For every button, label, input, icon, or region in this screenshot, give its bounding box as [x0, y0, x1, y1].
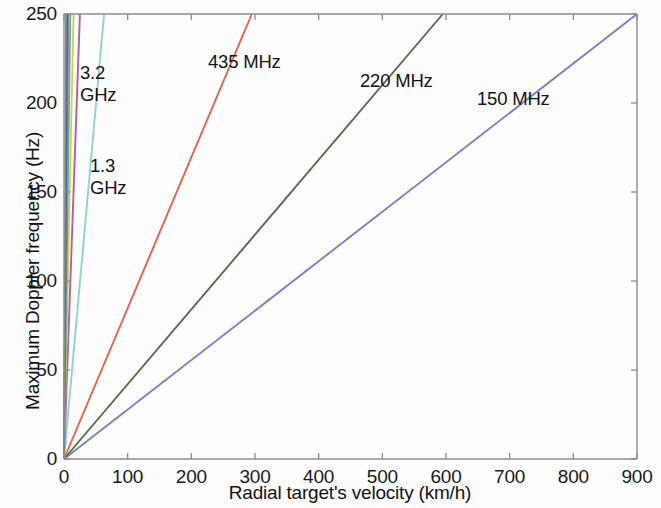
series-group — [64, 14, 637, 459]
x-tick-label-700: 700 — [494, 466, 525, 488]
series-label-1-3-ghz: 1.3 GHz — [90, 155, 126, 199]
doppler-frequency-chart: 0100200300400500600700800900 05010015020… — [0, 0, 661, 508]
series-label-220-mhz: 220 MHz — [360, 70, 433, 92]
x-tick-label-900: 900 — [621, 466, 652, 488]
x-tick-label-0: 0 — [59, 466, 69, 488]
series-line-150-mhz — [64, 14, 637, 459]
x-axis-title: Radial target's velocity (km/h) — [229, 482, 471, 504]
y-tick-label-250: 250 — [26, 3, 57, 25]
series-label-3-2-ghz: 3.2 GHz — [80, 62, 116, 106]
x-tick-label-100: 100 — [112, 466, 143, 488]
y-tick-label-200: 200 — [26, 92, 57, 114]
series-label-150-mhz: 150 MHz — [477, 88, 550, 110]
x-tick-label-200: 200 — [176, 466, 207, 488]
y-axis-title: Maximum Doppler frequency (Hz) — [22, 132, 44, 410]
x-tick-label-800: 800 — [558, 466, 589, 488]
series-label-435-mhz: 435 MHz — [208, 51, 281, 73]
y-tick-label-0: 0 — [47, 448, 57, 470]
